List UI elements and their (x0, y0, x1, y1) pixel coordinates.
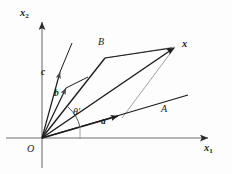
ray-c-extension (60, 43, 72, 72)
vector-x-label: x (182, 39, 187, 50)
angle-label: θ′ (73, 107, 80, 117)
x-axis-label: x1 (204, 143, 213, 155)
vector-a-label: a (101, 117, 106, 127)
origin-label: O (27, 144, 34, 154)
vector-decomposition-diagram: x2 x1 O B A x c b a θ′ (0, 0, 232, 174)
x-axis-subscript: 1 (209, 147, 213, 155)
vector-b-label: b (54, 89, 59, 99)
y-axis-label: x2 (20, 8, 29, 20)
ray-b-extension (66, 77, 88, 88)
y-axis-subscript: 2 (25, 12, 29, 20)
vector-x (42, 48, 174, 138)
vector-c-label: c (41, 68, 45, 78)
line-B-segment-origin (42, 58, 105, 138)
line-A-label: A (161, 104, 167, 114)
diagram-canvas (0, 0, 232, 174)
axis-group (6, 22, 208, 168)
line-B-label: B (98, 37, 104, 47)
